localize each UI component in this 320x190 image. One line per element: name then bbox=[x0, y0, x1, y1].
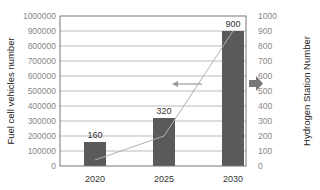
x-tick-label: 2025 bbox=[154, 174, 174, 184]
bar-value-label: 900 bbox=[225, 19, 240, 29]
left-tick-label: 400000 bbox=[28, 101, 57, 111]
left-tick-label: 100000 bbox=[28, 146, 57, 156]
left-tick-label: 200000 bbox=[28, 131, 57, 141]
right-tick-label: 300 bbox=[258, 116, 272, 126]
right-tick-label: 900 bbox=[258, 26, 272, 36]
left-tick-label: 600000 bbox=[28, 71, 57, 81]
left-tick-label: 700000 bbox=[28, 56, 57, 66]
right-tick-label: 500 bbox=[258, 86, 272, 96]
bar bbox=[222, 31, 244, 166]
chart: 160320900 010000020000030000040000050000… bbox=[0, 0, 320, 190]
left-axis-label: Fuel cell vehicles number bbox=[5, 37, 16, 144]
right-axis-ticks: 01002003004005006007008009001000 bbox=[258, 11, 277, 171]
bar-value-label: 320 bbox=[156, 106, 171, 116]
left-tick-label: 1000000 bbox=[23, 11, 56, 21]
right-tick-label: 100 bbox=[258, 146, 272, 156]
right-tick-label: 700 bbox=[258, 56, 272, 66]
bar bbox=[153, 118, 175, 166]
right-tick-label: 1000 bbox=[258, 11, 277, 21]
right-tick-label: 0 bbox=[258, 161, 263, 171]
bar-value-label: 160 bbox=[87, 130, 102, 140]
x-tick-label: 2020 bbox=[85, 174, 105, 184]
left-arrow-icon bbox=[172, 81, 202, 87]
left-tick-label: 900000 bbox=[28, 26, 57, 36]
left-tick-label: 500000 bbox=[28, 86, 57, 96]
right-tick-label: 400 bbox=[258, 101, 272, 111]
left-tick-label: 300000 bbox=[28, 116, 57, 126]
right-tick-label: 600 bbox=[258, 71, 272, 81]
left-tick-label: 800000 bbox=[28, 41, 57, 51]
right-axis-label: Hydrogen Station Number bbox=[301, 36, 312, 146]
right-tick-label: 800 bbox=[258, 41, 272, 51]
left-axis-ticks: 0100000200000300000400000500000600000700… bbox=[23, 11, 56, 171]
x-axis-ticks: 202020252030 bbox=[85, 174, 243, 184]
x-tick-label: 2030 bbox=[223, 174, 243, 184]
bar bbox=[84, 142, 106, 166]
bars: 160320900 bbox=[84, 19, 244, 166]
left-tick-label: 0 bbox=[51, 161, 56, 171]
right-tick-label: 200 bbox=[258, 131, 272, 141]
